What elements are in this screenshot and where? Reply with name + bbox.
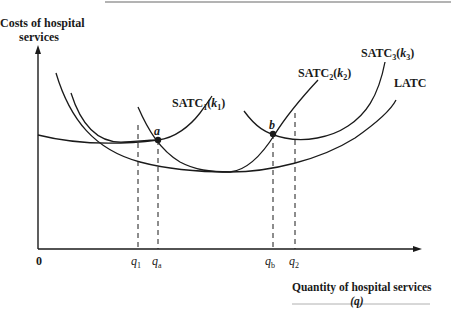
- satc2-label: SATC2(k2): [298, 66, 351, 82]
- y-axis-arrow-icon: [35, 45, 41, 54]
- x-axis-label-line1: Quantity of hospital services: [292, 280, 422, 294]
- y-axis-label-line2: services: [0, 30, 78, 44]
- tick-q2: q2: [289, 254, 299, 270]
- cost-curves-diagram: Costs of hospital services Quantity of h…: [0, 0, 451, 313]
- satc1-label-sub: 1: [203, 103, 207, 112]
- x-axis-label: Quantity of hospital services (q): [292, 280, 422, 308]
- satc1-label-name: SATC: [172, 96, 203, 110]
- latc-curve: [56, 73, 396, 172]
- tick-qb: qb: [265, 254, 275, 270]
- satc3-label-sub: 3: [392, 53, 396, 62]
- satc3-label-param-sub: 3: [406, 53, 410, 62]
- origin-label: 0: [36, 254, 42, 269]
- satc1-label: SATC1(k1): [172, 96, 225, 112]
- latc-label: LATC: [394, 76, 426, 91]
- tick-q1: q1: [131, 254, 141, 270]
- tick-q2-sub: 2: [295, 261, 299, 270]
- tick-qa: qa: [152, 254, 162, 270]
- satc2-label-name: SATC: [298, 66, 329, 80]
- satc2-label-param-sub: 2: [343, 73, 347, 82]
- y-axis-label: Costs of hospital services: [0, 16, 78, 44]
- satc2-curve: [138, 80, 318, 172]
- x-axis-label-line2: (q): [292, 294, 422, 308]
- satc3-label-name: SATC: [361, 46, 392, 60]
- tick-qb-sub: b: [271, 261, 275, 270]
- tick-qa-sub: a: [158, 261, 162, 270]
- satc1-label-param-sub: 1: [217, 103, 221, 112]
- point-b-label: b: [269, 118, 275, 133]
- satc2-label-sub: 2: [329, 73, 333, 82]
- tick-q1-sub: 1: [137, 261, 141, 270]
- x-axis-arrow-icon: [413, 246, 422, 252]
- point-a-label: a: [154, 124, 160, 139]
- y-axis-label-line1: Costs of hospital: [0, 16, 78, 30]
- satc3-label: SATC3(k3): [361, 46, 414, 62]
